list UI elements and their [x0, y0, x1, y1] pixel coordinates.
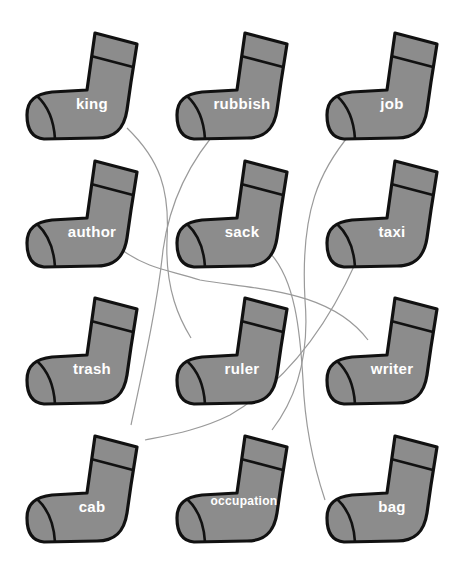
sock-icon: [172, 30, 307, 150]
sock-card-sack[interactable]: sack: [172, 158, 307, 278]
sock-card-ruler[interactable]: ruler: [172, 295, 307, 415]
sock-icon: [322, 30, 457, 150]
sock-icon: [172, 433, 307, 553]
sock-icon: [22, 433, 157, 553]
sock-card-king[interactable]: king: [22, 30, 157, 150]
sock-card-author[interactable]: author: [22, 158, 157, 278]
sock-icon: [322, 295, 457, 415]
sock-word: occupation: [210, 494, 277, 508]
sock-word: job: [380, 95, 403, 112]
sock-word: trash: [73, 360, 111, 377]
sock-word: king: [76, 95, 108, 112]
sock-icon: [22, 158, 157, 278]
sock-card-occupation[interactable]: occupation: [172, 433, 307, 553]
sock-card-bag[interactable]: bag: [322, 433, 457, 553]
sock-icon: [172, 158, 307, 278]
sock-word: bag: [378, 498, 406, 515]
sock-word: author: [68, 223, 116, 240]
sock-word: taxi: [378, 223, 405, 240]
sock-icon: [322, 433, 457, 553]
sock-card-writer[interactable]: writer: [322, 295, 457, 415]
sock-card-trash[interactable]: trash: [22, 295, 157, 415]
sock-icon: [22, 295, 157, 415]
sock-word: writer: [371, 360, 414, 377]
sock-word: rubbish: [213, 95, 270, 112]
sock-icon: [322, 158, 457, 278]
sock-icon: [22, 30, 157, 150]
sock-card-taxi[interactable]: taxi: [322, 158, 457, 278]
sock-word: ruler: [225, 360, 260, 377]
sock-card-rubbish[interactable]: rubbish: [172, 30, 307, 150]
sock-word: sack: [225, 223, 260, 240]
sock-icon: [172, 295, 307, 415]
sock-card-job[interactable]: job: [322, 30, 457, 150]
sock-word: cab: [79, 498, 106, 515]
sock-card-cab[interactable]: cab: [22, 433, 157, 553]
matching-worksheet: king rubbish job author sack: [0, 0, 464, 563]
